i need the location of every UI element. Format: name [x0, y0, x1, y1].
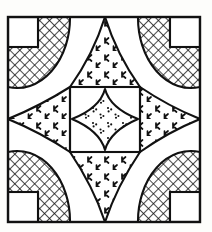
corner-notch-top-left: [8, 17, 38, 47]
corner-notch-bottom-right: [170, 192, 200, 222]
corner-notch-bottom-left: [8, 192, 38, 222]
corner-notch-top-right: [170, 17, 200, 47]
quilt-block-figure: [0, 0, 212, 232]
quilt-block-drawing: [0, 0, 212, 232]
